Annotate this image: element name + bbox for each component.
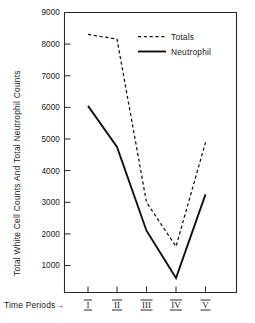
x-tick-labels: I II III IV V	[84, 300, 211, 310]
legend-label-totals: Totals	[171, 32, 194, 42]
y-tick-label: 3000	[41, 198, 60, 207]
x-tick-label-1: I	[87, 300, 90, 310]
y-tick-label: 5000	[41, 135, 60, 144]
x-tick-label-5: V	[202, 300, 209, 310]
series-line-neutrophil	[88, 106, 206, 278]
y-tick-marks	[65, 13, 71, 266]
x-axis-caption: Time Periods→	[4, 300, 64, 310]
x-tick-label-2: II	[114, 300, 120, 310]
x-tick-label-4: IV	[171, 300, 181, 310]
y-tick-label: 9000	[41, 8, 60, 17]
legend-label-neutrophil: Neutrophil	[171, 47, 211, 57]
y-tick-labels: 9000 8000 7000 6000 5000 4000 3000 2000 …	[41, 8, 60, 270]
chart-figure: 9000 8000 7000 6000 5000 4000 3000 2000 …	[0, 0, 255, 323]
chart-legend: Totals Neutrophil	[138, 32, 211, 57]
y-tick-label: 8000	[41, 40, 60, 49]
x-tick-marks	[88, 287, 206, 293]
y-tick-label: 4000	[41, 167, 60, 176]
y-tick-label: 2000	[41, 230, 60, 239]
y-tick-label: 1000	[41, 261, 60, 270]
y-axis-title: Total White Cell Counts And Total Neutro…	[12, 70, 22, 276]
y-tick-label: 6000	[41, 103, 60, 112]
y-tick-label: 7000	[41, 72, 60, 81]
line-chart: 9000 8000 7000 6000 5000 4000 3000 2000 …	[0, 0, 255, 323]
series-line-totals	[88, 34, 206, 246]
x-tick-label-3: III	[142, 300, 151, 310]
